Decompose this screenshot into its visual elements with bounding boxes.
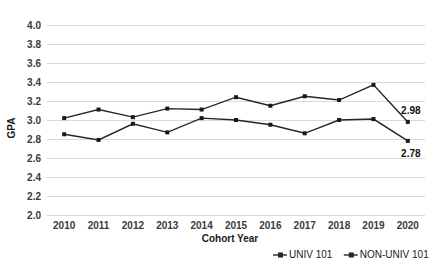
x-tick-label: 2019 [362, 220, 385, 231]
y-tick-label: 4.0 [27, 20, 41, 31]
y-tick-label: 2.4 [27, 172, 41, 183]
data-point-marker [165, 130, 169, 134]
legend-label: NON-UNIV 101 [360, 249, 429, 260]
x-tick-label: 2012 [122, 220, 145, 231]
y-tick-label: 2.0 [27, 210, 41, 221]
data-point-marker [234, 95, 238, 99]
data-point-marker [165, 107, 169, 111]
y-axis-tick-labels: 4.03.83.63.43.23.02.82.62.42.22.0 [27, 20, 41, 221]
x-tick-label: 2013 [156, 220, 179, 231]
series-group [62, 83, 410, 143]
legend-marker-swatch [278, 253, 283, 258]
data-point-marker [406, 120, 410, 124]
data-point-marker [62, 132, 66, 136]
y-tick-label: 3.6 [27, 58, 41, 69]
data-point-marker [303, 131, 307, 135]
gpa-line-chart: 4.03.83.63.43.23.02.82.62.42.22.0 201020… [0, 0, 441, 275]
data-point-marker [337, 118, 341, 122]
data-point-marker [268, 104, 272, 108]
x-axis-title: Cohort Year [202, 233, 259, 244]
x-tick-label: 2020 [397, 220, 420, 231]
data-point-marker [406, 139, 410, 143]
x-tick-label: 2014 [191, 220, 214, 231]
data-point-marker [97, 108, 101, 112]
series-line-univ-101 [64, 85, 408, 122]
x-tick-label: 2016 [259, 220, 282, 231]
x-tick-label: 2017 [294, 220, 317, 231]
data-point-marker [303, 94, 307, 98]
data-point-marker [200, 108, 204, 112]
data-point-marker [268, 123, 272, 127]
x-tick-label: 2011 [88, 220, 110, 231]
chart-canvas: 4.03.83.63.43.23.02.82.62.42.22.0 201020… [0, 0, 441, 275]
data-label: 2.78 [401, 148, 421, 159]
legend-marker-swatch [349, 253, 354, 258]
chart-legend: UNIV 101NON-UNIV 101 [273, 249, 429, 260]
data-point-marker [131, 122, 135, 126]
data-label-group: 2.982.78 [401, 105, 421, 159]
data-point-marker [234, 118, 238, 122]
data-point-marker [62, 116, 66, 120]
y-tick-label: 3.0 [27, 115, 41, 126]
x-axis-tick-labels: 2010201120122013201420152016201720182019… [53, 220, 419, 231]
y-tick-label: 3.8 [27, 39, 41, 50]
data-point-marker [337, 98, 341, 102]
x-tick-label: 2015 [225, 220, 248, 231]
data-label: 2.98 [401, 105, 421, 116]
data-point-marker [97, 138, 101, 142]
legend-item-non-univ-101[interactable]: NON-UNIV 101 [344, 249, 429, 260]
y-tick-label: 3.4 [27, 77, 41, 88]
y-tick-label: 2.2 [27, 191, 41, 202]
data-point-marker [131, 115, 135, 119]
legend-item-univ-101[interactable]: UNIV 101 [273, 249, 333, 260]
x-tick-label: 2018 [328, 220, 351, 231]
data-point-marker [371, 117, 375, 121]
y-axis-title: GPA [6, 118, 17, 139]
y-tick-label: 3.2 [27, 96, 41, 107]
data-point-marker [371, 83, 375, 87]
y-tick-label: 2.8 [27, 134, 41, 145]
legend-label: UNIV 101 [289, 249, 333, 260]
y-tick-label: 2.6 [27, 153, 41, 164]
x-tick-label: 2010 [53, 220, 76, 231]
data-point-marker [200, 116, 204, 120]
